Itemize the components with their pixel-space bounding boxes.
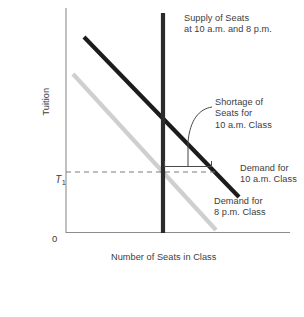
demand-10am-annotation-label: Demand for 10 a.m. Class bbox=[240, 163, 297, 186]
t1-axis-tick-label: T1 bbox=[44, 163, 66, 200]
chart-canvas bbox=[0, 0, 304, 317]
shortage-annotation-label: Shortage of Seats for 10 a.m. Class bbox=[215, 97, 272, 131]
shortage-leader-line bbox=[188, 107, 212, 142]
y-axis-title: Tuition bbox=[41, 74, 52, 130]
supply-demand-figure: Tuition Number of Seats in Class 0 T1 Su… bbox=[0, 0, 304, 317]
demand-8pm-annotation-label: Demand for 8 p.m. Class bbox=[214, 196, 266, 219]
origin-label: 0 bbox=[52, 233, 57, 244]
t1-symbol: T bbox=[55, 174, 61, 185]
supply-annotation-label: Supply of Seats at 10 a.m. and 8 p.m. bbox=[184, 13, 272, 36]
t1-subscript: 1 bbox=[62, 178, 66, 187]
x-axis-title: Number of Seats in Class bbox=[111, 252, 216, 263]
